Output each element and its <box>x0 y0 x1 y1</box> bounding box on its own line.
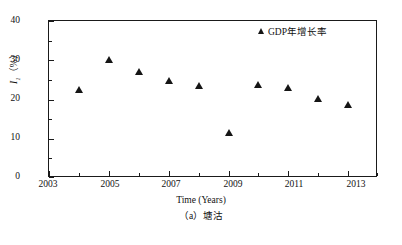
y-tick-30 <box>49 60 54 61</box>
figure-caption: （a）塘沽 <box>0 208 402 222</box>
x-tick-2006 <box>139 173 140 176</box>
y-tick-label-10: 10 <box>11 133 21 143</box>
y-axis-title: I1（%） <box>6 68 22 84</box>
y-tick-label-40: 40 <box>11 16 21 26</box>
data-point-2012 <box>314 95 322 102</box>
x-tick-2003 <box>49 171 50 176</box>
data-point-2006 <box>135 68 143 75</box>
y-tick-label-20: 20 <box>11 94 21 104</box>
legend-entry-label: GDP年增长率 <box>268 24 327 38</box>
y-tick-20 <box>49 100 54 101</box>
x-tick-2013 <box>348 171 349 176</box>
legend: GDP年增长率 <box>258 24 327 38</box>
y-tick-40 <box>49 21 54 22</box>
triangle-up-icon <box>258 28 264 34</box>
y-tick-10 <box>49 139 54 140</box>
x-axis-title: Time (Years) <box>0 195 402 205</box>
x-tick-label-2013: 2013 <box>336 179 376 189</box>
x-tick-label-2003: 2003 <box>28 179 68 189</box>
x-tick-2010 <box>258 173 259 176</box>
y-tick-25 <box>49 80 52 81</box>
data-point-2009 <box>225 129 233 136</box>
data-point-2007 <box>165 77 173 84</box>
y-tick-0 <box>49 177 54 178</box>
y-tick-35 <box>49 41 52 42</box>
data-point-2011 <box>284 84 292 91</box>
y-axis-title-symbol: I <box>9 81 19 84</box>
x-tick-2008 <box>199 173 200 176</box>
y-tick-label-0: 0 <box>15 172 20 182</box>
data-point-2005 <box>105 56 113 63</box>
y-tick-5 <box>49 158 52 159</box>
x-tick-label-2005: 2005 <box>90 179 130 189</box>
data-point-2008 <box>195 82 203 89</box>
y-axis-title-subscript: 1 <box>14 77 22 81</box>
plot-area <box>48 20 377 177</box>
data-point-2004 <box>75 86 83 93</box>
x-tick-2014 <box>377 173 378 176</box>
x-tick-2005 <box>109 171 110 176</box>
x-tick-2009 <box>229 171 230 176</box>
data-point-2013 <box>344 101 352 108</box>
x-tick-label-2011: 2011 <box>274 179 314 189</box>
data-point-2010 <box>254 81 262 88</box>
plot-inner <box>49 21 376 176</box>
x-tick-2004 <box>79 173 80 176</box>
y-tick-15 <box>49 119 52 120</box>
figure-container: I1（%） 40 30 20 10 0 2003 2005 2007 2009 … <box>0 0 402 245</box>
x-tick-2012 <box>318 173 319 176</box>
x-tick-label-2009: 2009 <box>213 179 253 189</box>
x-tick-2011 <box>288 171 289 176</box>
x-tick-2007 <box>169 171 170 176</box>
y-tick-label-30: 30 <box>11 55 21 65</box>
x-tick-label-2007: 2007 <box>151 179 191 189</box>
